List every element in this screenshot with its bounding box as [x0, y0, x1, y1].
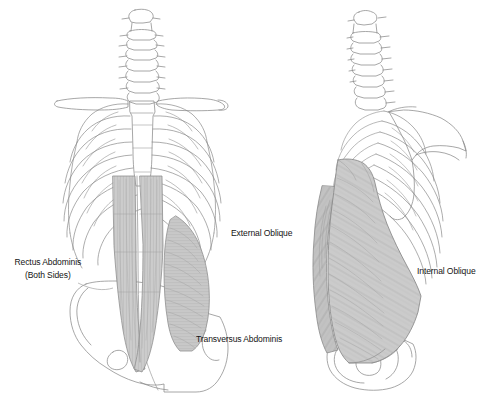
- label-internal-oblique: Internal Oblique: [417, 265, 476, 278]
- label-rectus-abdominis: Rectus Abdominis (Both Sides): [15, 256, 82, 281]
- label-external-oblique: External Oblique: [231, 227, 292, 240]
- label-transversus-abdominis: Transversus Abdominis: [196, 333, 282, 346]
- label-rectus-abdominis-line1: Rectus Abdominis: [15, 257, 82, 267]
- label-rectus-abdominis-line2: (Both Sides): [15, 269, 82, 282]
